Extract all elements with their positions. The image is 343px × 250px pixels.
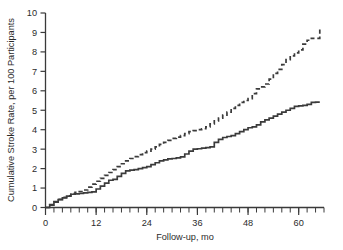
x-axis-minor-ticks: [46, 208, 325, 213]
y-tick-label: 9: [32, 28, 37, 38]
line-chart: 012345678910 Cumulative Stroke Rate, per…: [0, 0, 343, 250]
y-axis-ticks: [41, 13, 46, 208]
y-tick-label: 0: [32, 203, 37, 213]
y-tick-label: 4: [32, 125, 37, 135]
series-line-solid: [46, 102, 320, 207]
y-axis-tick-labels: 012345678910: [27, 8, 37, 213]
x-tick-label: 36: [192, 218, 202, 228]
y-tick-label: 2: [32, 164, 37, 174]
y-tick-label: 7: [32, 67, 37, 77]
x-tick-label: 12: [91, 218, 101, 228]
y-axis-group: 012345678910 Cumulative Stroke Rate, per…: [6, 8, 46, 213]
data-series-layer: [46, 29, 320, 208]
y-tick-label: 6: [32, 86, 37, 96]
y-tick-label: 3: [32, 145, 37, 155]
y-axis-title: Cumulative Stroke Rate, per 100 Particip…: [6, 18, 16, 202]
y-tick-label: 8: [32, 47, 37, 57]
x-tick-label: 0: [43, 218, 48, 228]
x-axis-title: Follow-up, mo: [156, 232, 214, 242]
y-tick-label: 1: [32, 183, 37, 193]
y-tick-label: 10: [27, 8, 37, 18]
x-axis-tick-labels: 01224364860: [43, 218, 304, 228]
x-axis-group: 01224364860 Follow-up, mo: [43, 208, 324, 243]
y-tick-label: 5: [32, 106, 37, 116]
x-tick-label: 48: [243, 218, 253, 228]
x-tick-label: 24: [142, 218, 152, 228]
chart-figure: 012345678910 Cumulative Stroke Rate, per…: [0, 0, 343, 250]
x-tick-label: 60: [294, 218, 304, 228]
series-line-dashed: [46, 29, 320, 208]
